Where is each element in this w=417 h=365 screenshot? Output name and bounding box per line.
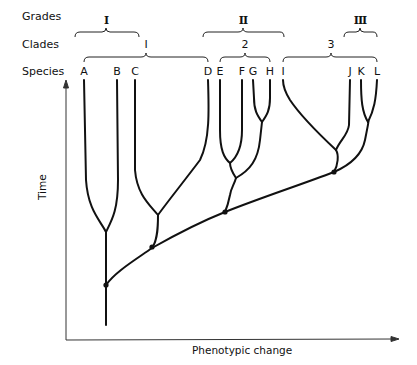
grade-brace-2 <box>203 28 284 37</box>
node-root <box>103 282 108 287</box>
grade-brace-3 <box>344 28 377 37</box>
node-clade3 <box>331 169 336 174</box>
phylogeny-diagram <box>0 0 417 365</box>
x-axis-arrow-icon <box>391 337 399 342</box>
node-clade2 <box>222 209 227 214</box>
x-axis <box>66 339 393 340</box>
clade-brace-3 <box>283 53 377 62</box>
grade-brace-1 <box>75 28 139 37</box>
clade-brace-2 <box>220 53 270 62</box>
clade-brace-1 <box>84 53 208 62</box>
node-cd <box>149 244 154 249</box>
x-axis-label: Phenotypic change <box>192 344 292 356</box>
y-axis-arrow-icon <box>64 80 69 88</box>
y-axis-label: Time <box>36 174 48 200</box>
